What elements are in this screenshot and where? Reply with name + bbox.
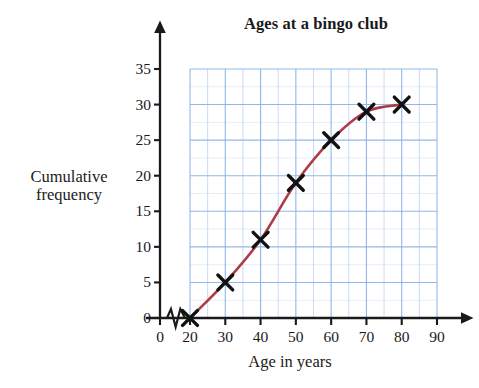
x-tick-label: 90 — [429, 328, 445, 346]
y-tick-label: 25 — [108, 131, 151, 149]
y-tick-label: 20 — [108, 167, 151, 185]
x-tick-label: 50 — [288, 328, 304, 346]
x-axis-label: Age in years — [190, 352, 390, 372]
x-tick-label: 40 — [253, 328, 269, 346]
x-tick-label: 30 — [218, 328, 234, 346]
x-tick-label: 70 — [359, 328, 375, 346]
cumulative-frequency-chart: Ages at a bingo club Cumulative frequenc… — [0, 0, 479, 388]
x-tick-label: 0 — [156, 328, 164, 346]
x-tick-label: 60 — [323, 328, 339, 346]
y-tick-label: 5 — [108, 273, 151, 291]
y-tick-label: 35 — [108, 60, 151, 78]
chart-title: Ages at a bingo club — [196, 14, 436, 34]
y-tick-label: 10 — [108, 238, 151, 256]
x-tick-label: 20 — [182, 328, 198, 346]
y-tick-label: 0 — [108, 309, 151, 327]
x-tick-label: 80 — [394, 328, 410, 346]
y-tick-label: 30 — [108, 96, 151, 114]
y-tick-label: 15 — [108, 202, 151, 220]
